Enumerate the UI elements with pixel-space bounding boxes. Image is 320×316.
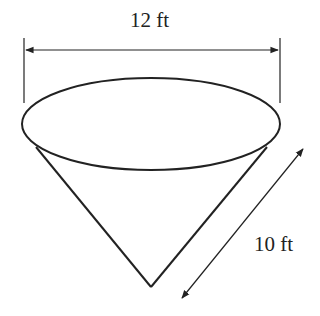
cone-side-left [36,147,151,287]
slant-dimension-arrow [182,149,303,298]
diameter-label: 12 ft [130,8,169,33]
cone-side-right [151,147,267,287]
slant-height-label: 10 ft [254,232,293,257]
cone-diagram [0,0,320,316]
cone-base-ellipse [22,78,280,170]
